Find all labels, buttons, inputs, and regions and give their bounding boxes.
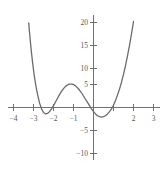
chart-figure: −4 −3 −2 −1 2 3 20 15 10 5 −5 −10 xyxy=(0,0,166,169)
x-tick-label-minus4: −4 xyxy=(10,114,18,123)
y-tick-label-20: 20 xyxy=(81,18,89,27)
x-tick-label-minus3: −3 xyxy=(30,114,38,123)
x-tick-label-2: 2 xyxy=(132,114,136,123)
y-tick-label-minus5: −5 xyxy=(80,126,88,135)
x-tick-label-3: 3 xyxy=(152,114,156,123)
y-tick-label-5: 5 xyxy=(84,80,88,89)
y-tick-label-10: 10 xyxy=(81,64,89,73)
plot-area: −4 −3 −2 −1 2 3 20 15 10 5 −5 −10 xyxy=(0,0,166,169)
x-tick-label-minus1: −1 xyxy=(70,114,78,123)
y-tick-label-minus10: −10 xyxy=(76,149,88,158)
y-tick-label-15: 15 xyxy=(81,41,89,50)
x-tick-label-minus2: −2 xyxy=(50,114,58,123)
